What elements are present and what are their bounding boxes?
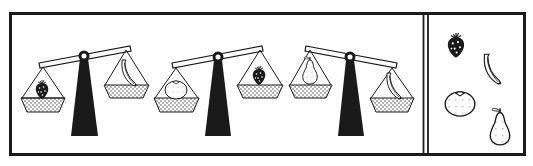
orange-icon (445, 92, 475, 116)
orange-icon (165, 81, 187, 99)
puzzle-canvas (0, 0, 533, 166)
